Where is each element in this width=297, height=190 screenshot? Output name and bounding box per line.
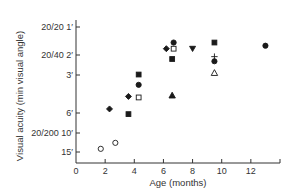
x-tick-label: 8	[190, 166, 195, 176]
data-point-filled-down-triangle	[190, 46, 196, 51]
axes	[76, 20, 280, 163]
data-point-filled-circle	[136, 82, 141, 87]
data-point-filled-square	[136, 72, 141, 77]
x-tick-label: 6	[161, 166, 166, 176]
y-tick-label: 20/200 10′	[31, 128, 73, 138]
data-point-filled-circle	[263, 43, 268, 48]
y-tick-label: 6′	[66, 108, 73, 118]
y-tick-label: 3′	[66, 70, 73, 80]
data-point-open-square	[136, 95, 141, 100]
data-point-filled-square	[212, 40, 217, 45]
x-axis-title: Age (months)	[149, 177, 206, 188]
data-points	[98, 40, 268, 151]
x-tick-label: 2	[103, 166, 108, 176]
scatter-chart: 20/20 1′20/40 2′3′6′20/200 10′15′ 024681…	[0, 0, 297, 190]
y-axis-title: Visual acuity (min visual angle)	[14, 31, 25, 161]
data-point-filled-diamond	[125, 93, 131, 99]
x-tick-label: 12	[246, 166, 256, 176]
x-tick-label: 4	[132, 166, 137, 176]
data-point-filled-diamond	[163, 46, 169, 52]
y-tick-label: 20/40 2′	[41, 50, 73, 60]
data-point-open-triangle	[211, 70, 217, 76]
y-tick-label: 15′	[61, 147, 73, 157]
data-point-open-circle	[113, 140, 118, 145]
y-axis-ticks: 20/20 1′20/40 2′3′6′20/200 10′15′	[31, 22, 80, 157]
data-point-filled-circle	[171, 40, 176, 45]
data-point-filled-diamond	[107, 106, 113, 112]
data-point-plus	[211, 53, 217, 59]
x-tick-label: 10	[217, 166, 227, 176]
x-tick-label: 0	[73, 166, 78, 176]
data-point-open-square	[171, 46, 176, 51]
data-point-filled-square	[170, 57, 175, 62]
y-tick-label: 20/20 1′	[41, 22, 73, 32]
data-point-filled-triangle	[169, 92, 175, 98]
data-point-filled-square	[126, 112, 131, 117]
x-axis-ticks: 024681012	[73, 159, 255, 176]
data-point-open-circle	[98, 146, 103, 151]
